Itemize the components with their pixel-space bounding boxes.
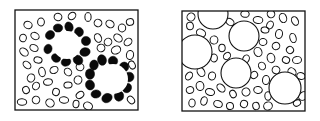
large-void-circle xyxy=(98,64,128,94)
open-particle xyxy=(189,99,196,107)
filled-particle xyxy=(53,24,62,32)
open-particle xyxy=(205,87,216,96)
open-particle xyxy=(29,43,40,53)
open-particle xyxy=(253,46,264,58)
open-particle xyxy=(271,41,281,51)
open-particle xyxy=(53,12,63,21)
open-particle xyxy=(285,45,295,55)
open-particle xyxy=(30,31,41,41)
open-particle xyxy=(21,85,30,94)
filled-particle xyxy=(79,47,91,58)
open-particle xyxy=(209,35,218,45)
open-particle xyxy=(226,102,234,110)
open-particle xyxy=(228,89,237,99)
open-particle xyxy=(26,73,36,84)
open-particle xyxy=(215,82,226,93)
open-particle xyxy=(184,71,194,82)
open-particle xyxy=(265,20,275,30)
large-void-circle xyxy=(269,72,301,104)
large-void-circle xyxy=(198,0,228,29)
open-particle xyxy=(186,22,194,30)
open-particle xyxy=(253,86,263,94)
open-particle xyxy=(262,75,270,85)
open-particle xyxy=(112,32,124,43)
open-particle xyxy=(31,81,41,91)
right-panel xyxy=(178,0,309,111)
left-panel xyxy=(15,10,138,111)
open-particle xyxy=(126,18,134,26)
open-particle xyxy=(93,32,103,43)
open-particle xyxy=(208,71,217,80)
open-particle xyxy=(123,37,134,48)
open-particle xyxy=(49,65,60,75)
open-particle xyxy=(19,34,27,43)
large-void-circle xyxy=(53,31,81,59)
open-particle xyxy=(290,15,300,26)
open-particle xyxy=(240,86,251,97)
large-void-circle xyxy=(229,21,259,51)
large-void-circle xyxy=(178,35,212,69)
open-particle xyxy=(44,97,56,109)
open-particle xyxy=(110,44,122,55)
open-particle xyxy=(252,102,260,111)
open-particle xyxy=(73,75,83,85)
open-particle xyxy=(195,81,204,91)
open-particle xyxy=(200,96,209,106)
open-particle xyxy=(118,24,126,32)
open-particle xyxy=(278,12,288,23)
open-particle xyxy=(253,16,263,24)
open-particle xyxy=(185,86,194,94)
open-particle xyxy=(22,60,33,70)
open-particle xyxy=(126,95,136,105)
open-particle xyxy=(262,101,273,112)
open-particle xyxy=(239,99,248,108)
open-particle xyxy=(17,98,27,105)
open-particle xyxy=(266,52,276,63)
open-particle xyxy=(127,60,136,70)
open-particle xyxy=(93,18,103,28)
open-particle xyxy=(126,50,135,60)
open-particle xyxy=(33,56,42,63)
open-particle xyxy=(281,56,290,65)
large-void-circle xyxy=(221,58,251,88)
open-particle xyxy=(73,100,80,108)
open-particle xyxy=(38,67,46,77)
open-particle xyxy=(63,67,74,78)
open-particle xyxy=(259,38,267,46)
open-particle xyxy=(104,19,115,29)
open-particle xyxy=(85,13,91,22)
open-particle xyxy=(67,11,78,21)
open-particle xyxy=(185,11,196,22)
open-particle xyxy=(23,20,33,30)
open-particle xyxy=(266,9,277,20)
filled-particle xyxy=(84,79,96,91)
filled-particle xyxy=(85,69,94,79)
filled-particle xyxy=(91,89,102,98)
open-particle xyxy=(43,78,53,86)
open-particle xyxy=(257,61,267,71)
filled-particle xyxy=(81,36,92,47)
open-particle xyxy=(59,96,69,103)
open-particle xyxy=(64,82,72,88)
filled-particle xyxy=(43,43,54,55)
open-particle xyxy=(292,56,302,64)
open-particle xyxy=(52,88,60,97)
open-particle xyxy=(18,46,30,57)
open-particle xyxy=(213,99,223,108)
open-particle xyxy=(31,95,41,105)
open-particle xyxy=(219,44,226,52)
open-particle xyxy=(75,90,85,100)
particle-diagram xyxy=(0,0,320,121)
open-particle xyxy=(275,29,283,39)
open-particle xyxy=(261,26,270,33)
open-particle xyxy=(38,18,45,26)
open-particle xyxy=(289,33,298,44)
